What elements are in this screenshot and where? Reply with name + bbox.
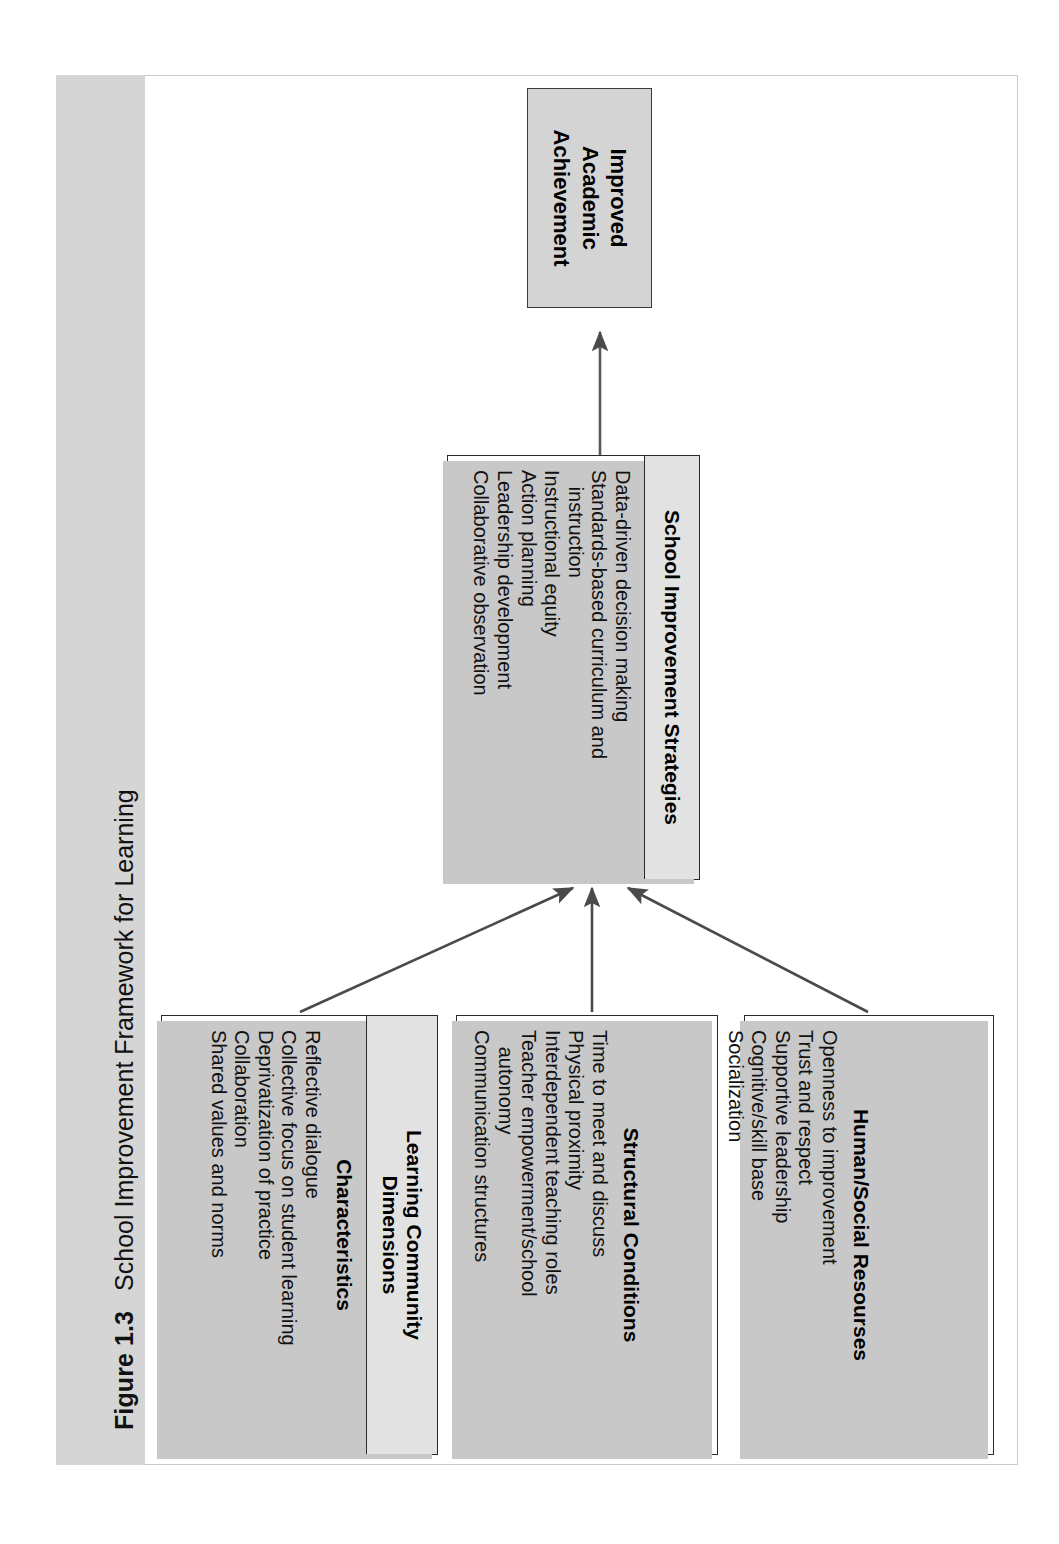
connector-dimension1-to-strategies (300, 888, 573, 1012)
connector-dimension3-to-strategies (628, 888, 868, 1012)
figure-page: Figure 1.3School Improvement Framework f… (0, 0, 1059, 1544)
connector-layer (0, 0, 1059, 1544)
